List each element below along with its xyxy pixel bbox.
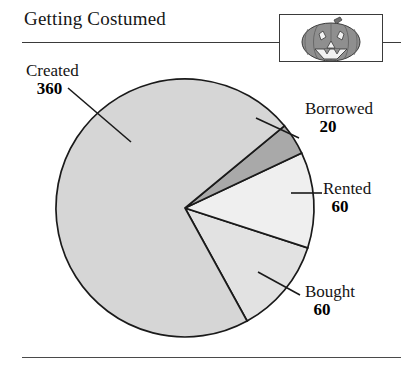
- slice-label-created-name: Created: [26, 62, 79, 80]
- slice-label-bought-name: Bought: [305, 283, 355, 301]
- slice-label-created-value: 360: [26, 80, 79, 98]
- slice-label-borrowed-value: 20: [305, 118, 373, 136]
- chart-page: Getting Costumed: [0, 0, 419, 370]
- slice-label-borrowed: Borrowed 20: [305, 100, 373, 135]
- slice-label-bought-value: 60: [305, 301, 355, 319]
- slice-label-rented-value: 60: [323, 198, 371, 216]
- slice-label-created: Created 360: [26, 62, 79, 97]
- slice-label-rented: Rented 60: [323, 180, 371, 215]
- slice-label-borrowed-name: Borrowed: [305, 100, 373, 118]
- slice-label-bought: Bought 60: [305, 283, 355, 318]
- slice-label-rented-name: Rented: [323, 180, 371, 198]
- footer-rule: [22, 357, 401, 358]
